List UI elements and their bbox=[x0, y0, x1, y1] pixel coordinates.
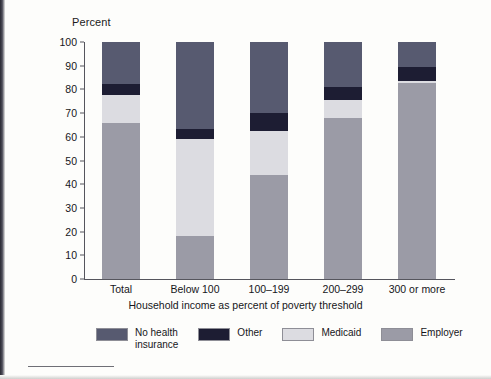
bar-segment-other bbox=[250, 113, 288, 131]
legend-item: Other bbox=[198, 327, 262, 341]
plot-area: 0102030405060708090100 bbox=[84, 42, 454, 279]
legend-swatch bbox=[96, 328, 128, 341]
y-axis-tick-mark bbox=[80, 184, 84, 185]
bar-stack bbox=[250, 42, 288, 279]
y-axis-tick-mark bbox=[80, 255, 84, 256]
x-axis-line bbox=[84, 279, 455, 280]
x-axis-title: Household income as percent of poverty t… bbox=[0, 299, 491, 311]
y-axis-title: Percent bbox=[72, 16, 111, 28]
bar-segment-other bbox=[102, 84, 140, 96]
legend-swatch bbox=[381, 328, 413, 341]
chart-figure: Percent 0102030405060708090100 Household… bbox=[0, 0, 491, 379]
bar-segment-medicaid bbox=[250, 131, 288, 175]
y-axis-tick-mark bbox=[80, 231, 84, 232]
bar-segment-no-health-insurance bbox=[324, 42, 362, 87]
legend-item: Medicaid bbox=[282, 327, 361, 341]
x-axis-tick-label: 100–199 bbox=[249, 283, 290, 295]
legend-item: No health insurance bbox=[96, 327, 178, 350]
scan-edge-bottom bbox=[0, 375, 491, 379]
bar-segment-no-health-insurance bbox=[250, 42, 288, 113]
bar-segment-no-health-insurance bbox=[398, 42, 436, 67]
legend-item: Employer bbox=[381, 327, 462, 341]
bar-segment-medicaid bbox=[176, 139, 214, 236]
y-axis-tick-mark bbox=[80, 136, 84, 137]
scan-edge-left bbox=[0, 0, 5, 379]
bar-segment-employer bbox=[176, 236, 214, 279]
y-axis-tick-mark bbox=[80, 42, 84, 43]
bar-segment-other bbox=[398, 67, 436, 81]
footnote-rule bbox=[28, 366, 114, 367]
y-axis-tick-mark bbox=[80, 160, 84, 161]
bar-segment-employer bbox=[324, 118, 362, 279]
bar-segment-other bbox=[324, 87, 362, 100]
legend-swatch bbox=[282, 328, 314, 341]
x-axis-tick-label: 300 or more bbox=[389, 283, 446, 295]
legend-label: Medicaid bbox=[321, 327, 361, 339]
y-axis-tick-mark bbox=[80, 279, 84, 280]
bar-segment-medicaid bbox=[102, 95, 140, 122]
chart-legend: No health insuranceOtherMedicaidEmployer bbox=[96, 327, 476, 350]
bar-segment-medicaid bbox=[324, 100, 362, 118]
x-axis-tick-label: Below 100 bbox=[170, 283, 219, 295]
bar-stack bbox=[398, 42, 436, 279]
bar-segment-no-health-insurance bbox=[176, 42, 214, 129]
bar-segment-no-health-insurance bbox=[102, 42, 140, 83]
x-axis-tick-label: Total bbox=[110, 283, 132, 295]
y-axis-tick-mark bbox=[80, 65, 84, 66]
bar-segment-other bbox=[176, 129, 214, 140]
legend-label: No health insurance bbox=[135, 327, 178, 350]
bar-stack bbox=[102, 42, 140, 279]
y-axis-tick-mark bbox=[80, 207, 84, 208]
bar-stack bbox=[324, 42, 362, 279]
legend-swatch bbox=[198, 328, 230, 341]
y-axis-tick-mark bbox=[80, 113, 84, 114]
bar-segment-employer bbox=[250, 175, 288, 279]
legend-label: Employer bbox=[420, 327, 462, 339]
bar-segment-employer bbox=[102, 123, 140, 279]
x-axis-tick-label: 200–299 bbox=[323, 283, 364, 295]
legend-label: Other bbox=[237, 327, 262, 339]
bar-stack bbox=[176, 42, 214, 279]
bar-segment-employer bbox=[398, 83, 436, 279]
y-axis-tick-mark bbox=[80, 89, 84, 90]
